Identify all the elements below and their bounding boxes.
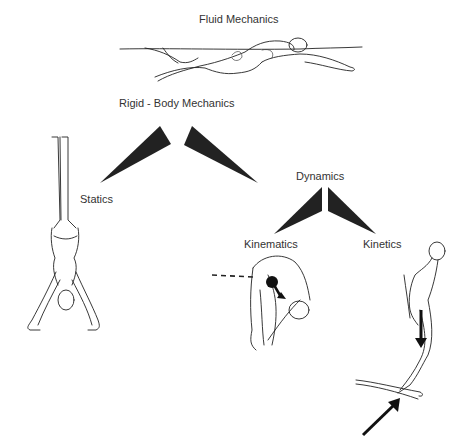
connector-rigid-to-statics bbox=[100, 126, 171, 183]
connector-rigid-to-dynamics bbox=[184, 126, 258, 183]
label-dynamics: Dynamics bbox=[296, 170, 344, 182]
label-kinematics: Kinematics bbox=[244, 238, 298, 250]
label-kinetics: Kinetics bbox=[363, 238, 402, 250]
connector-dynamics-to-kinetics bbox=[328, 187, 376, 234]
kinetics-diver-illustration bbox=[356, 242, 445, 435]
connector-dynamics-to-kinematics bbox=[274, 187, 322, 234]
handstand-illustration bbox=[28, 137, 99, 330]
label-rigid-body-mechanics: Rigid - Body Mechanics bbox=[119, 97, 235, 109]
kinematics-diver-illustration bbox=[212, 256, 310, 350]
label-statics: Statics bbox=[80, 193, 113, 205]
label-fluid-mechanics: Fluid Mechanics bbox=[199, 13, 278, 25]
swimmer-illustration bbox=[120, 38, 362, 81]
diagram-canvas bbox=[0, 0, 468, 447]
